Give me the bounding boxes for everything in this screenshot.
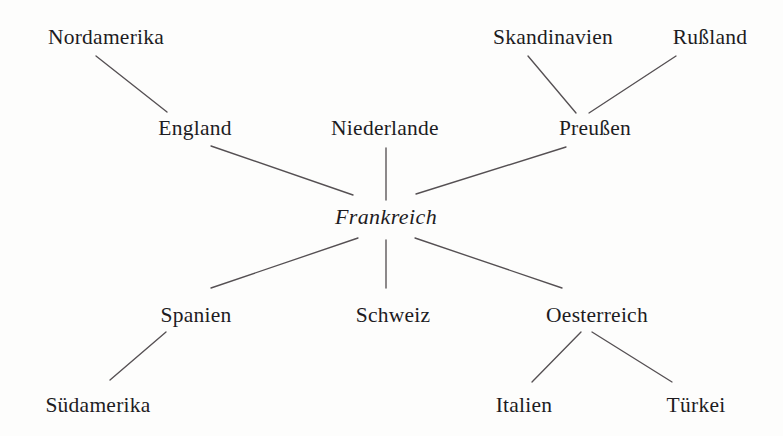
edge-spanien-suedamerika	[110, 332, 166, 380]
edge-nordamerika-england	[96, 56, 167, 112]
node-preussen[interactable]: Preußen	[559, 118, 631, 140]
node-label-text: Spanien	[160, 303, 231, 327]
node-frankreich[interactable]: Frankreich	[335, 206, 437, 228]
edge-oesterreich-tuerkei	[592, 332, 672, 382]
node-label-text: Nordamerika	[48, 25, 164, 49]
node-label-text: Niederlande	[331, 116, 439, 140]
node-label-text: Skandinavien	[493, 25, 613, 49]
node-suedamerika[interactable]: Südamerika	[45, 395, 150, 417]
edge-england-frankreich	[211, 146, 353, 195]
node-niederlande[interactable]: Niederlande	[331, 118, 439, 140]
node-label-text: Rußland	[673, 25, 748, 49]
node-italien[interactable]: Italien	[496, 395, 553, 417]
node-label-text: Frankreich	[335, 204, 437, 229]
node-label-text: Türkei	[667, 393, 726, 417]
node-england[interactable]: England	[158, 118, 231, 140]
node-label-text: Schweiz	[356, 303, 431, 327]
node-label-text: Südamerika	[45, 393, 150, 417]
node-label-text: Preußen	[559, 116, 631, 140]
node-spanien[interactable]: Spanien	[160, 305, 231, 327]
diagram-canvas: NordamerikaSkandinavienRußlandEnglandNie…	[0, 0, 783, 436]
node-nordamerika[interactable]: Nordamerika	[48, 27, 164, 49]
node-label-text: Oesterreich	[546, 303, 648, 327]
edge-oesterreich-italien	[532, 332, 581, 382]
edge-skandinavien-preussen	[528, 56, 576, 113]
node-russland[interactable]: Rußland	[673, 27, 748, 49]
edge-russland-preussen	[589, 56, 676, 113]
node-label-text: England	[158, 116, 231, 140]
edge-frankreich-oesterreich	[415, 238, 562, 288]
node-tuerkei[interactable]: Türkei	[667, 395, 726, 417]
edge-frankreich-spanien	[211, 238, 358, 288]
node-schweiz[interactable]: Schweiz	[356, 305, 431, 327]
node-oesterreich[interactable]: Oesterreich	[546, 305, 648, 327]
edge-preussen-frankreich	[416, 147, 566, 194]
node-skandinavien[interactable]: Skandinavien	[493, 27, 613, 49]
node-label-text: Italien	[496, 393, 553, 417]
